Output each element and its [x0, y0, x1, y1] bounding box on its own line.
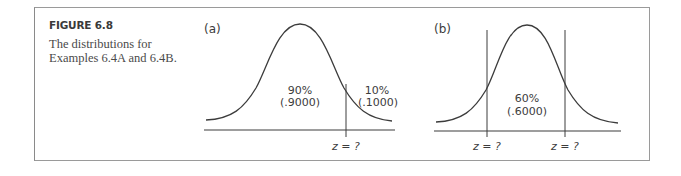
z-label-a: z = ? — [331, 140, 360, 153]
region-proportion-10: (.1000) — [358, 96, 398, 109]
region-proportion-60: (.6000) — [507, 105, 547, 118]
region-percent-60: 60% — [515, 92, 539, 105]
panel-b: (b) 60% (.6000) z = ? z = ? — [434, 22, 621, 153]
distribution-diagrams: (a) 90% (.9000) 10% (.1000) z = ? (b) 60… — [0, 0, 681, 176]
z-label-b-left: z = ? — [472, 140, 501, 153]
panel-a: (a) 90% (.9000) 10% (.1000) z = ? — [204, 22, 398, 153]
z-label-b-right: z = ? — [550, 140, 579, 153]
panel-a-label: (a) — [204, 22, 221, 36]
region-proportion-90: (.9000) — [280, 96, 320, 109]
panel-b-label: (b) — [434, 22, 451, 36]
